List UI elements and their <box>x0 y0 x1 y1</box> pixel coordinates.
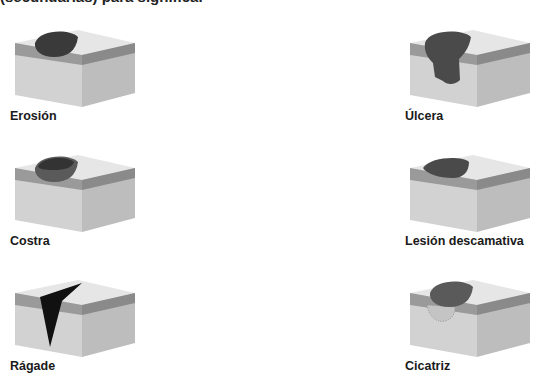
label-ulcer: Úlcera <box>405 109 443 123</box>
skin-block-fissure-icon <box>10 275 140 360</box>
figure-crust: Costra <box>10 150 160 270</box>
figure-scar: Cicatriz <box>405 275 544 387</box>
figure-ulcer: Úlcera <box>405 25 544 145</box>
label-crust: Costra <box>10 234 50 248</box>
skin-block-scale-icon <box>405 150 535 235</box>
label-scar: Cicatriz <box>405 359 450 373</box>
skin-block-scar-icon <box>405 275 535 360</box>
skin-block-erosion-icon <box>10 25 140 110</box>
skin-block-ulcer-icon <box>405 25 535 110</box>
label-fissure: Rágade <box>10 359 55 373</box>
label-scale: Lesión descamativa <box>405 234 524 248</box>
page-heading: (secundarias) para significar <box>0 0 544 4</box>
figure-scale: Lesión descamativa <box>405 150 544 270</box>
figure-fissure: Rágade <box>10 275 160 387</box>
skin-block-crust-icon <box>10 150 140 235</box>
figure-erosion: Erosión <box>10 25 160 145</box>
label-erosion: Erosión <box>10 109 57 123</box>
